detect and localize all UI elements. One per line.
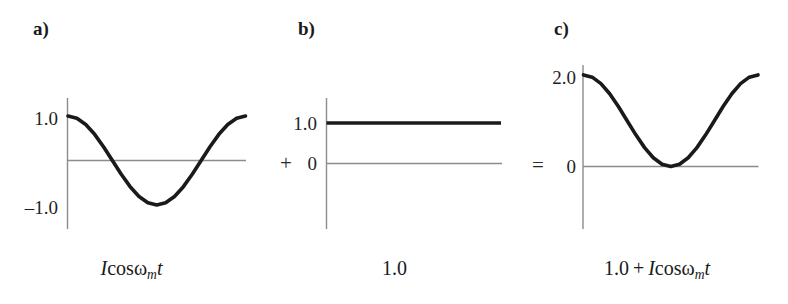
panel-b-caption: 1.0	[263, 258, 526, 278]
panel-c-caption-sub-m: m	[695, 267, 705, 282]
panel-c-caption-I: I	[648, 257, 655, 279]
panel-a-caption-omega: ω	[134, 257, 147, 279]
panel-b-caption-value: 1.0	[382, 257, 407, 279]
panel-a-caption-cos: cos	[107, 257, 134, 279]
panel-c-caption: 1.0 + Icosωmt	[526, 258, 788, 282]
panel-a-caption-sub-m: m	[147, 267, 157, 282]
figure-modulation-waveforms: a) 1.0 –1.0 Icosωmt b) + 1.0 0 1.0 c) =	[0, 0, 788, 304]
panel-a-caption-t: t	[157, 257, 163, 279]
panel-c-caption-t: t	[705, 257, 711, 279]
panel-c-caption-omega: ω	[682, 257, 695, 279]
panel-c-caption-one: 1.0	[604, 257, 629, 279]
panel-c-curve-left	[584, 75, 759, 167]
panel-a-caption: Icosωmt	[0, 258, 263, 282]
panel-c-caption-cos: cos	[655, 257, 682, 279]
panel-c: c) = 2.0 0 1.0 + Icosωmt	[526, 0, 788, 304]
panel-c-caption-plus: +	[629, 257, 648, 279]
panel-b: b) + 1.0 0 1.0	[263, 0, 526, 304]
panel-c-curve-mirror-helper	[587, 69, 700, 166]
panel-a: a) 1.0 –1.0 Icosωmt	[0, 0, 263, 304]
